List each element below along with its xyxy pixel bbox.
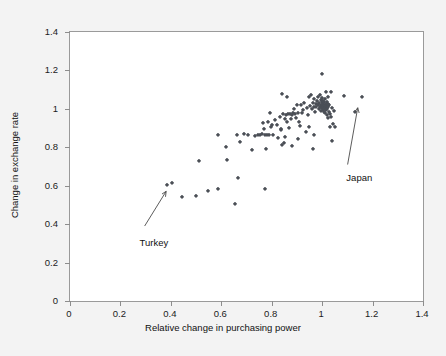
data-point [274,122,279,127]
data-point [330,138,335,143]
data-point [327,125,332,130]
data-point [278,127,283,132]
data-point [328,90,333,95]
data-point [331,109,336,114]
data-point [223,145,228,150]
data-point [193,193,198,198]
data-point [215,132,220,137]
data-point [353,109,358,114]
data-point [273,117,278,122]
data-point [303,129,308,134]
y-tick [65,224,70,225]
data-point [225,158,230,163]
y-tick [65,32,70,33]
data-point [262,126,267,131]
data-point [312,133,317,138]
y-tick-label: 0.8 [28,141,58,152]
data-point [329,114,334,119]
data-point [298,123,303,128]
data-point [313,109,318,114]
data-point [197,159,202,164]
annotation-label-turkey: Turkey [140,237,169,248]
data-point [283,134,288,139]
data-point [233,202,238,207]
y-tick-label: 0.6 [28,179,58,190]
data-point [342,94,347,99]
y-tick [65,70,70,71]
data-point [332,124,337,129]
y-tick-label: 0 [28,295,58,306]
y-tick [65,109,70,110]
plot-area [69,31,424,302]
x-tick-label: 1.2 [352,308,392,319]
y-tick-label: 1.2 [28,64,58,75]
x-tick [423,301,424,306]
data-point [238,140,243,145]
y-tick-label: 0.2 [28,256,58,267]
x-tick [373,301,374,306]
y-tick-label: 1.4 [28,26,58,37]
x-tick [221,301,222,306]
x-tick [70,301,71,306]
data-point [305,113,310,118]
scatter-chart-figure: 00.20.40.60.811.21.4 00.20.40.60.811.21.… [0,0,446,356]
x-tick [171,301,172,306]
x-tick-label: 1.4 [402,308,442,319]
y-tick [65,147,70,148]
data-point [280,92,285,97]
x-tick [120,301,121,306]
x-axis-title: Relative change in purchasing power [0,322,446,333]
data-point [285,119,290,124]
data-point [170,181,175,186]
x-tick-label: 0.8 [251,308,291,319]
data-point [360,95,365,100]
y-axis-title: Change in exchange rate [9,112,20,218]
data-point [245,132,250,137]
data-point [268,111,273,116]
data-point [179,195,184,200]
data-point [250,148,255,153]
data-point [320,72,325,77]
y-tick-label: 1 [28,102,58,113]
data-point [234,133,239,138]
data-point [276,136,281,141]
y-tick [65,186,70,187]
data-point [290,144,295,149]
data-points-layer [70,32,423,301]
y-tick-label: 0.4 [28,218,58,229]
x-tick-label: 0.6 [200,308,240,319]
x-tick-label: 0 [49,308,89,319]
data-point [264,147,269,152]
x-tick-label: 0.2 [99,308,139,319]
data-point [271,133,276,138]
data-point [215,187,220,192]
data-point [236,175,241,180]
data-point [287,126,292,131]
x-tick-label: 0.4 [150,308,190,319]
annotation-label-japan: Japan [346,172,372,183]
x-tick [322,301,323,306]
x-tick [272,301,273,306]
y-tick [65,263,70,264]
data-point [310,147,315,152]
data-point [296,137,301,142]
data-point [285,94,290,99]
x-tick-label: 1 [301,308,341,319]
data-point [307,125,312,130]
data-point [165,182,170,187]
data-point [263,187,268,192]
data-point [206,189,211,194]
